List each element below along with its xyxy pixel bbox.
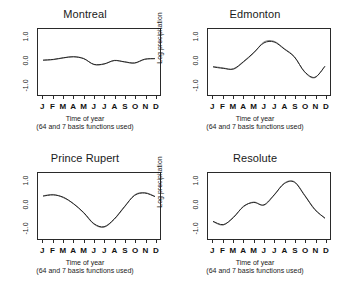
x-tick-mark [233,96,234,99]
x-axis-caption: Time of year(64 and 7 basis functions us… [170,115,340,131]
caption-main: Time of year [0,259,170,267]
x-tick-mark [73,96,74,99]
x-axis-ticks [207,96,331,100]
panel-montreal: MontrealLog precipitation1.00.0-1.0JFMAM… [0,0,170,143]
y-tick-label: 1.0 [191,28,200,46]
curve-resolute-0 [213,180,325,225]
panel-title-prince-rupert: Prince Rupert [0,152,170,165]
x-tick-mark [146,240,147,243]
x-tick-mark [84,96,85,99]
curve-edmonton-1 [213,41,325,77]
y-tick-label: 1.0 [21,171,30,189]
x-axis-labels: JFMAMJJASOND [37,101,161,112]
panel-edmonton: EdmontonLog precipitation1.00.0-1.0JFMAM… [170,0,340,143]
x-tick-mark [264,240,265,243]
x-tick-mark [212,96,213,99]
x-tick-mark [264,96,265,99]
y-tick-label: 1.0 [21,28,30,46]
caption-sub: (64 and 7 basis functions used) [170,267,340,275]
panel-title-edmonton: Edmonton [170,8,340,21]
plot-area-montreal [37,28,161,96]
x-tick-mark [243,240,244,243]
panel-title-resolute: Resolute [170,152,340,165]
curve-edmonton-0 [213,40,325,78]
x-tick-mark [53,96,54,99]
x-tick-mark [305,96,306,99]
x-axis-labels: JFMAMJJASOND [207,101,331,112]
x-tick-mark [274,96,275,99]
caption-main: Time of year [0,115,170,123]
y-tick-label: 0.0 [191,195,200,213]
panel-resolute: ResoluteLog precipitation1.00.0-1.0JFMAM… [170,144,340,287]
x-tick-mark [156,96,157,99]
y-tick-label: -1.0 [191,76,200,94]
y-axis-label: Log precipitation [155,148,165,216]
x-tick-mark [104,96,105,99]
x-tick-mark [146,96,147,99]
x-axis-labels: JFMAMJJASOND [207,245,331,256]
x-axis-labels: JFMAMJJASOND [37,245,161,256]
x-tick-mark [63,240,64,243]
x-tick-mark [233,240,234,243]
x-tick-mark [295,96,296,99]
x-axis-caption: Time of year(64 and 7 basis functions us… [0,115,170,131]
x-tick-mark [285,96,286,99]
caption-main: Time of year [170,115,340,123]
x-tick-mark [243,96,244,99]
plot-area-prince-rupert [37,172,161,240]
x-tick-mark [316,240,317,243]
caption-main: Time of year [170,259,340,267]
x-tick-mark [63,96,64,99]
x-tick-mark [254,96,255,99]
x-tick-mark [94,240,95,243]
x-tick-mark [326,96,327,99]
x-tick-mark [223,240,224,243]
caption-sub: (64 and 7 basis functions used) [170,123,340,131]
x-tick-mark [212,240,213,243]
curve-montreal-1 [43,57,155,65]
x-tick-mark [42,96,43,99]
x-tick-mark [115,96,116,99]
curve-prince-rupert-0 [43,192,155,227]
x-tick-label: D [320,245,332,256]
panel-prince-rupert: Prince RupertLog precipitation1.00.0-1.0… [0,144,170,287]
x-tick-mark [156,240,157,243]
y-tick-label: 0.0 [21,195,30,213]
x-tick-mark [53,240,54,243]
x-tick-mark [84,240,85,243]
y-tick-label: 0.0 [191,52,200,70]
x-tick-mark [125,240,126,243]
x-axis-ticks [37,96,161,100]
x-tick-mark [135,240,136,243]
x-axis-caption: Time of year(64 and 7 basis functions us… [0,259,170,275]
y-tick-label: 0.0 [21,52,30,70]
plot-area-edmonton [207,28,331,96]
x-axis-caption: Time of year(64 and 7 basis functions us… [170,259,340,275]
y-tick-label: -1.0 [21,76,30,94]
x-tick-mark [326,240,327,243]
y-tick-label: -1.0 [191,220,200,238]
caption-sub: (64 and 7 basis functions used) [0,123,170,131]
x-axis-ticks [207,240,331,244]
x-tick-mark [115,240,116,243]
x-tick-mark [42,240,43,243]
curve-resolute-1 [213,181,325,224]
y-tick-label: -1.0 [21,220,30,238]
x-tick-mark [285,240,286,243]
x-tick-label: D [150,245,162,256]
precipitation-figure: MontrealLog precipitation1.00.0-1.0JFMAM… [0,0,340,287]
x-tick-mark [135,96,136,99]
panel-title-montreal: Montreal [0,8,170,21]
x-tick-label: D [150,101,162,112]
x-tick-mark [316,96,317,99]
plot-area-resolute [207,172,331,240]
x-tick-mark [295,240,296,243]
y-axis-label: Log precipitation [155,4,165,72]
x-tick-mark [254,240,255,243]
caption-sub: (64 and 7 basis functions used) [0,267,170,275]
x-axis-ticks [37,240,161,244]
x-tick-mark [223,96,224,99]
curve-prince-rupert-1 [43,192,155,226]
y-tick-label: 1.0 [191,171,200,189]
x-tick-mark [73,240,74,243]
